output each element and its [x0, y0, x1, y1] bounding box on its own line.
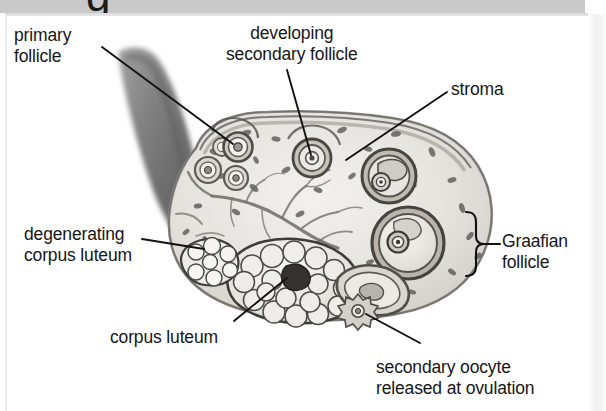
label-developing-secondary-follicle: developing secondary follicle	[226, 23, 358, 64]
leader-secondary-oocyte	[366, 314, 420, 343]
label-stroma: stroma	[451, 79, 504, 100]
corpus-albicans	[181, 238, 238, 287]
graafian-follicle-upper	[362, 149, 416, 203]
label-corpus-luteum: corpus luteum	[110, 327, 218, 348]
label-primary-follicle: primary follicle	[14, 25, 71, 66]
figure-page: g	[0, 0, 606, 411]
label-graafian-follicle: Graafian follicle	[502, 231, 568, 272]
label-secondary-oocyte: secondary oocyte released at ovulation	[376, 357, 534, 398]
label-degenerating-corpus-luteum: degenerating corpus luteum	[24, 224, 132, 265]
